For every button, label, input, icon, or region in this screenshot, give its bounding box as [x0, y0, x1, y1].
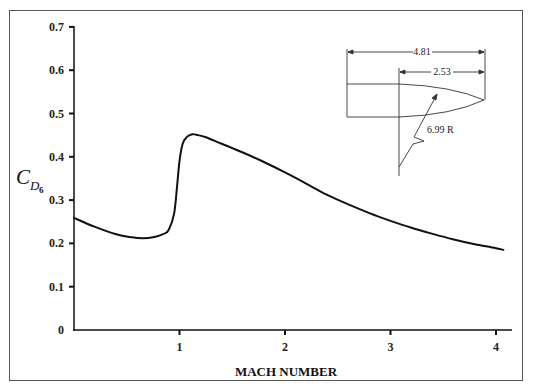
projectile-inset-diagram [347, 49, 485, 176]
y-tick-label: 0.5 [49, 107, 64, 121]
inset-labels: 4.81 2.53 6.99 R [413, 46, 454, 135]
y-tick-label: 0.4 [49, 150, 64, 164]
arrow-head-icon [400, 70, 405, 74]
ogive-top [399, 84, 484, 100]
x-tick-label: 2 [282, 340, 288, 354]
drag-coefficient-chart: 00.10.20.30.40.50.60.7 1234 C D 6 MACH N… [0, 0, 535, 390]
dim-total-length-label: 4.81 [413, 46, 431, 57]
y-axis-label-main: C [16, 165, 31, 189]
arrow-head-icon [348, 50, 353, 54]
x-axis-title: MACH NUMBER [235, 364, 338, 379]
y-axis-label: C D 6 [16, 165, 44, 195]
y-axis-ticks: 00.10.20.30.40.50.60.7 [49, 20, 74, 337]
arrow-head-icon [479, 50, 484, 54]
arrow-head-icon [479, 70, 484, 74]
y-tick-label: 0.3 [49, 193, 64, 207]
x-tick-label: 4 [493, 340, 499, 354]
y-axis-label-subsub: 6 [39, 185, 44, 195]
y-tick-label: 0 [58, 323, 64, 337]
ogive-bottom [399, 100, 484, 117]
y-tick-label: 0.7 [49, 20, 64, 34]
dim-ogive-length-label: 2.53 [433, 66, 451, 77]
x-axis-ticks: 1234 [177, 330, 500, 354]
arrow-head-icon [432, 94, 437, 100]
y-tick-label: 0.1 [49, 280, 64, 294]
y-tick-label: 0.2 [49, 236, 64, 250]
drag-curve-line [74, 134, 503, 250]
y-tick-label: 0.6 [49, 63, 64, 77]
ogive-radius-label: 6.99 R [427, 124, 454, 135]
x-tick-label: 3 [388, 340, 394, 354]
x-tick-label: 1 [177, 340, 183, 354]
